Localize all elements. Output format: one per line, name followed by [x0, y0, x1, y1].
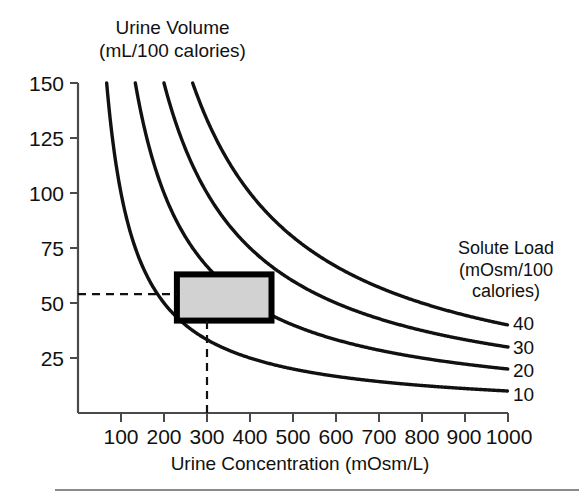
footer-rule: [55, 489, 579, 491]
curve-label-40: 40: [513, 313, 534, 335]
y-tick-label: 25: [41, 347, 64, 370]
x-tick-label: 500: [275, 425, 310, 448]
curve-label-10: 10: [513, 384, 534, 406]
x-axis-title: Urine Concentration (mOsm/L): [120, 452, 480, 475]
normal-range-rect: [177, 274, 272, 320]
curve-label-30: 30: [513, 337, 534, 359]
solute-load-curves: [107, 83, 508, 391]
x-tick-label: 900: [446, 425, 481, 448]
x-axis-ticks: [121, 413, 508, 422]
x-tick-label: 100: [103, 425, 138, 448]
x-tick-label: 800: [404, 425, 439, 448]
y-tick-label: 75: [41, 237, 64, 260]
y-tick-label: 150: [29, 72, 64, 95]
x-tick-label: 600: [318, 425, 353, 448]
x-tick-label: 200: [146, 425, 181, 448]
curve-solute-load-20: [135, 83, 507, 369]
x-tick-label: 300: [189, 425, 224, 448]
normal-range-box: [177, 274, 272, 320]
x-axis-tick-labels: 100 200 300 400 500 600 700 800 900 1000: [103, 425, 532, 448]
y-tick-label: 125: [29, 127, 64, 150]
y-axis-ticks: [70, 83, 78, 358]
x-tick-label: 1000: [486, 425, 533, 448]
curve-label-20: 20: [513, 360, 534, 382]
y-tick-label: 100: [29, 182, 64, 205]
y-tick-label: 50: [41, 292, 64, 315]
x-tick-label: 400: [232, 425, 267, 448]
y-axis-tick-labels: 150 125 100 75 50 25: [29, 72, 64, 370]
urine-volume-concentration-chart: Urine Volume (mL/100 calories) 150 125 1…: [0, 0, 579, 501]
curve-solute-load-10: [107, 83, 508, 391]
x-tick-label: 700: [361, 425, 396, 448]
legend-title: Solute Load (mOsm/100 calories): [440, 238, 572, 303]
